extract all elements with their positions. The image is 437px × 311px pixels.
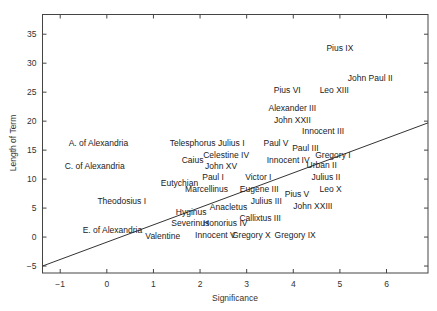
point-label: John XV — [205, 161, 237, 171]
point-label: Honorius IV — [203, 218, 248, 228]
y-tick-label: −5 — [27, 261, 37, 271]
point-label: Paul V — [264, 138, 289, 148]
point-label: Gregory X — [232, 230, 271, 240]
point-label: E. of Alexandria — [83, 225, 143, 235]
x-tick-label: 5 — [338, 279, 343, 289]
x-tick-label: 6 — [384, 279, 389, 289]
point-label: Leo X — [319, 184, 342, 194]
point-label: Pius IX — [326, 43, 353, 53]
point-label: Innocent III — [302, 126, 344, 136]
y-tick-label: 5 — [32, 203, 37, 213]
point-label: Julius I — [218, 138, 244, 148]
y-axis-label: Length of Term — [8, 115, 18, 172]
point-label: Gregory I — [315, 150, 350, 160]
point-label: Innocent IV — [267, 155, 310, 165]
point-label: Marcellinus — [185, 184, 228, 194]
y-tick-label: 10 — [27, 174, 37, 184]
point-label: Paul I — [202, 172, 224, 182]
y-tick-label: 20 — [27, 116, 37, 126]
x-tick-label: 2 — [198, 279, 203, 289]
x-tick-label: 3 — [244, 279, 249, 289]
x-tick-label: 0 — [104, 279, 109, 289]
point-label: Julius III — [251, 196, 282, 206]
point-label: Urban II — [307, 160, 337, 170]
point-label: Innocent V — [195, 230, 236, 240]
point-label: Anacletus — [210, 202, 247, 212]
y-tick-label: 0 — [32, 232, 37, 242]
y-tick-label: 30 — [27, 58, 37, 68]
point-label: Valentine — [145, 231, 180, 241]
point-label: Eugene III — [240, 184, 279, 194]
point-label: Caius — [182, 155, 204, 165]
point-label: Victor I — [245, 172, 271, 182]
point-label: Gregory IX — [275, 230, 316, 240]
point-label: Pius V — [285, 189, 310, 199]
point-label: C. of Alexandria — [65, 161, 125, 171]
y-tick-label: 35 — [27, 29, 37, 39]
point-label: Alexander III — [268, 103, 316, 113]
point-labels: Pius IXJohn Paul IIPius VILeo XIIIAlexan… — [65, 43, 393, 241]
y-tick-label: 15 — [27, 145, 37, 155]
x-axis-label: Significance — [212, 293, 258, 303]
point-label: Hyginus — [176, 207, 207, 217]
x-tick-label: −1 — [55, 279, 65, 289]
point-label: John Paul II — [348, 73, 393, 83]
point-label: Telesphorus — [170, 138, 216, 148]
point-label: Theodosius I — [97, 196, 146, 206]
point-label: John XXII — [274, 115, 311, 125]
point-label: Pius VI — [274, 85, 301, 95]
point-label: John XXIII — [293, 201, 332, 211]
point-label: Leo XIII — [320, 85, 349, 95]
scatter-chart: −10123456−505101520253035 Pius IXJohn Pa… — [0, 0, 437, 311]
point-label: Julius II — [312, 172, 341, 182]
x-tick-label: 1 — [151, 279, 156, 289]
point-label: A. of Alexandria — [69, 138, 129, 148]
point-label: Celestine IV — [203, 150, 249, 160]
y-tick-label: 25 — [27, 87, 37, 97]
x-tick-label: 4 — [291, 279, 296, 289]
